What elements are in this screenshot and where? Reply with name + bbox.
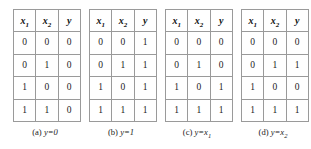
cell-x2: 1 (36, 99, 58, 121)
cell-x2: 0 (188, 77, 210, 99)
header-row: x1 x2 y (166, 10, 233, 32)
cell-x1: 0 (242, 54, 264, 76)
table-body-d: 0 0 0 0 1 1 1 0 0 1 (242, 32, 309, 122)
table-row: 0 0 0 (14, 32, 81, 54)
cell-x2: 0 (264, 32, 286, 54)
table-block-c: x1 x2 y 0 0 0 0 1 0 (165, 9, 229, 122)
header-cell-x1: x1 (90, 10, 112, 32)
truth-table-a: x1 x2 y 0 0 0 0 1 0 (13, 9, 81, 122)
table-row: 1 1 1 (90, 99, 157, 121)
cell-y: 1 (134, 99, 156, 121)
cell-x1: 0 (90, 54, 112, 76)
cell-x1: 1 (90, 77, 112, 99)
table-body-b: 0 0 1 0 1 1 1 0 1 1 (90, 32, 157, 122)
table-row: 0 0 0 (242, 32, 309, 54)
table-row: 0 0 0 (166, 32, 233, 54)
caption-c: (c) y=x1 (165, 126, 229, 138)
cell-x2: 1 (112, 54, 134, 76)
table-row: 0 0 1 (90, 32, 157, 54)
cell-x2: 0 (36, 32, 58, 54)
truth-table-b: x1 x2 y 0 0 1 0 1 1 (89, 9, 157, 122)
header-row: x1 x2 y (14, 10, 81, 32)
cell-y: 0 (58, 99, 80, 121)
cell-x2: 1 (112, 99, 134, 121)
table-row: 1 1 1 (242, 99, 309, 121)
table-row: 1 1 0 (14, 99, 81, 121)
cell-x1: 0 (14, 54, 36, 76)
caption-a: (a) y=0 (13, 126, 77, 138)
cell-x1: 0 (166, 32, 188, 54)
cell-y: 1 (134, 32, 156, 54)
cell-x1: 0 (14, 32, 36, 54)
cell-x2: 0 (112, 77, 134, 99)
cell-y: 0 (210, 32, 232, 54)
table-body-c: 0 0 0 0 1 0 1 0 1 1 (166, 32, 233, 122)
table-row: 1 0 0 (14, 77, 81, 99)
cell-y: 1 (134, 54, 156, 76)
cell-y: 0 (58, 77, 80, 99)
cell-x2: 0 (36, 77, 58, 99)
caption-d-label: (d) (259, 127, 269, 137)
caption-c-label: (c) (183, 127, 193, 137)
truth-tables-figure: x1 x2 y 0 0 0 0 1 0 (0, 0, 311, 149)
cell-x2: 1 (188, 99, 210, 121)
cell-x1: 1 (14, 99, 36, 121)
cell-x1: 1 (242, 99, 264, 121)
caption-b-expression: y=1 (120, 127, 134, 137)
table-header-b: x1 x2 y (90, 10, 157, 32)
table-row: 0 1 0 (14, 54, 81, 76)
header-cell-x1: x1 (166, 10, 188, 32)
header-cell-x2: x2 (112, 10, 134, 32)
captions-row: (a) y=0 (b) y=1 (c) y=x1 (d) y=x2 (0, 126, 311, 142)
truth-table-d: x1 x2 y 0 0 0 0 1 1 (241, 9, 309, 122)
table-header-c: x1 x2 y (166, 10, 233, 32)
table-row: 1 0 0 (242, 77, 309, 99)
cell-x1: 0 (242, 32, 264, 54)
cell-x1: 0 (90, 32, 112, 54)
truth-table-c: x1 x2 y 0 0 0 0 1 0 (165, 9, 233, 122)
caption-d-expression: y=x2 (271, 127, 288, 137)
caption-a-expression: y=0 (44, 127, 58, 137)
cell-x1: 1 (242, 77, 264, 99)
caption-c-expression: y=x1 (195, 127, 212, 137)
header-row: x1 x2 y (90, 10, 157, 32)
header-cell-x2: x2 (264, 10, 286, 32)
caption-a-label: (a) (32, 127, 42, 137)
cell-x1: 1 (166, 77, 188, 99)
header-cell-y: y (58, 10, 80, 32)
header-cell-y: y (210, 10, 232, 32)
cell-y: 1 (286, 99, 308, 121)
cell-x1: 0 (166, 54, 188, 76)
cell-y: 1 (286, 54, 308, 76)
cell-y: 0 (286, 77, 308, 99)
table-row: 1 0 1 (166, 77, 233, 99)
cell-y: 1 (210, 77, 232, 99)
cell-y: 1 (134, 77, 156, 99)
header-cell-x1: x1 (242, 10, 264, 32)
header-cell-x2: x2 (188, 10, 210, 32)
cell-x2: 1 (36, 54, 58, 76)
table-block-b: x1 x2 y 0 0 1 0 1 1 (89, 9, 153, 122)
table-block-a: x1 x2 y 0 0 0 0 1 0 (13, 9, 77, 122)
table-row: 0 1 1 (242, 54, 309, 76)
table-row: 1 1 1 (166, 99, 233, 121)
table-header-a: x1 x2 y (14, 10, 81, 32)
table-row: 1 0 1 (90, 77, 157, 99)
cell-y: 0 (210, 54, 232, 76)
header-row: x1 x2 y (242, 10, 309, 32)
cell-x2: 1 (264, 54, 286, 76)
header-cell-x1: x1 (14, 10, 36, 32)
header-cell-y: y (286, 10, 308, 32)
cell-x2: 0 (112, 32, 134, 54)
cell-y: 1 (210, 99, 232, 121)
table-row: 0 1 1 (90, 54, 157, 76)
caption-d: (d) y=x2 (241, 126, 305, 138)
cell-x2: 1 (188, 54, 210, 76)
cell-x1: 1 (14, 77, 36, 99)
caption-b: (b) y=1 (89, 126, 153, 138)
table-header-d: x1 x2 y (242, 10, 309, 32)
caption-b-label: (b) (108, 127, 118, 137)
table-row: 0 1 0 (166, 54, 233, 76)
table-block-d: x1 x2 y 0 0 0 0 1 1 (241, 9, 305, 122)
tables-row: x1 x2 y 0 0 0 0 1 0 (0, 9, 311, 119)
